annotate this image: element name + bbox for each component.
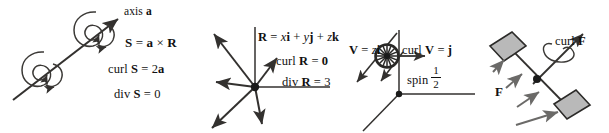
spin-word: spin [407,73,428,87]
div-r-label: div R = 3 [282,76,331,89]
v-definition-label: V = zi [349,44,380,57]
paddle-upper [490,32,526,61]
spin-label: spin12 [407,65,441,90]
axis-origin-dot [396,91,402,97]
s-definition-label: S = a × R [125,36,177,49]
vector-calculus-figure: axis a S = a × R curl S = 2a div S = 0 [0,0,609,133]
panel-rigid-rotation: axis a S = a × R curl S = 2a div S = 0 [0,0,200,133]
spiral-upper [74,12,114,47]
spin-fraction: 12 [431,65,441,90]
r-definition-label: R = xi + yj + zk [258,31,339,44]
curl-r-label: curl R = 0 [276,55,328,68]
panel-shear-field: V = zi curl V = j spin12 [345,0,475,133]
origin-dot [251,83,259,91]
rigid-rotation-graphic [0,0,200,133]
axis-vector-a: a [146,5,152,17]
paddle-wheel-graphic [470,0,609,133]
panel-paddle-wheel: curl F F [470,0,609,133]
depth-axis [363,94,399,131]
panel-position-field: R = xi + yj + zk curl R = 0 div R = 3 [190,0,355,133]
axis-label-text: axis [124,5,146,17]
curl-v-label: curl V = j [402,44,452,57]
curl-f-label: curl F [555,35,586,48]
paddle-lower [554,90,590,119]
spiral-lower [22,52,62,87]
div-s-label: div S = 0 [114,88,161,101]
curl-s-label: curl S = 2a [108,63,164,76]
position-field-graphic [190,0,355,133]
hub-dot [533,75,541,83]
f-field-label: F [495,85,503,98]
axis-label: axis a [124,6,152,18]
